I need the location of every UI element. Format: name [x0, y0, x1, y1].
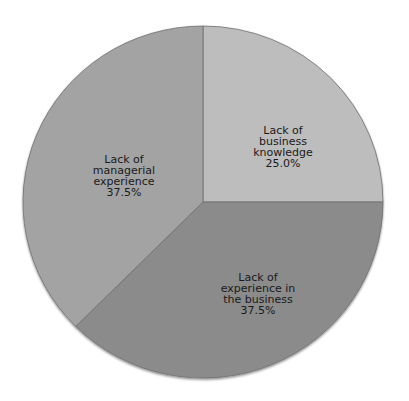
- slice-label-experience-in-business: Lack of experience in the business 37.5%: [221, 272, 296, 316]
- slice-value: 37.5%: [221, 305, 296, 316]
- slice-value: 37.5%: [93, 187, 155, 198]
- slice-value: 25.0%: [253, 158, 313, 169]
- slice-label-managerial-experience: Lack of managerial experience 37.5%: [93, 154, 155, 198]
- pie-slice: [203, 26, 383, 202]
- pie-chart: [0, 0, 409, 401]
- slice-label-business-knowledge: Lack of business knowledge 25.0%: [253, 125, 313, 169]
